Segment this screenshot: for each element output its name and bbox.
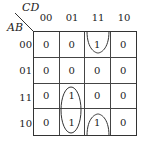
group-loop-vertical (61, 87, 81, 133)
group-loop-bottom (87, 114, 109, 136)
group-loop-top (87, 31, 109, 53)
group-loops (0, 0, 144, 146)
